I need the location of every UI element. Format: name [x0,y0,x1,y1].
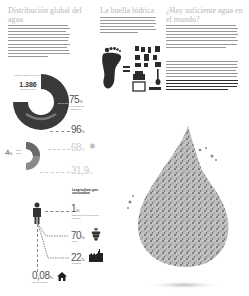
title-suficiente-agua: ¿Hay suficiente agua en el mundo? [166,7,246,24]
leader-line-75 [58,103,68,104]
title-huella: La huella hídrica [100,7,170,16]
stat-75-note: en glaciares y casquetes [70,106,90,112]
person-icon [31,202,43,224]
donut-value: 1.386 [13,81,43,88]
stat-1-note: disponible para consumo humano [72,215,102,221]
stat-008-note: uso doméstico [32,282,52,285]
stat-319: 31,9% [71,165,92,176]
suficiente-paragraph-2 [166,61,240,92]
leader-line-319 [40,172,70,173]
footprint-equals-objects-illustration [97,44,167,94]
fresh-label: agua dulce [16,150,26,156]
stat-96: 96% [71,124,84,135]
distribucion-paragraph [8,25,70,59]
donut-caption: Total de agua en la Tierra [13,75,43,78]
factory-icon [89,249,103,262]
donut-unit: billones de km³ [13,89,43,92]
leader-line-68 [48,149,70,150]
stat-70-note: riego [72,241,87,244]
house-icon [57,272,67,281]
stat-68: 68% [71,142,84,153]
huella-paragraph [100,17,156,36]
fresh-water-half-donut [22,141,50,171]
leader-line-1 [45,211,69,212]
branch-lines [37,224,72,264]
suficiente-paragraph-1 [166,25,240,50]
title-distribucion: Distribución global del agua [8,7,83,24]
stat-75: 75% [69,94,82,105]
stat-008: 0,08% [32,270,53,281]
consumption-heading: La agricultura, gran consumidora [72,189,106,195]
grapes-icon [91,228,101,242]
stat-22-note: industria [72,263,87,266]
snowflake-icon: ❄ [89,142,96,151]
stat-1: 1% [71,203,79,214]
stat-fresh-4: 4% [5,148,12,157]
leader-line-96 [50,131,70,132]
water-drop-illustration [120,120,249,296]
